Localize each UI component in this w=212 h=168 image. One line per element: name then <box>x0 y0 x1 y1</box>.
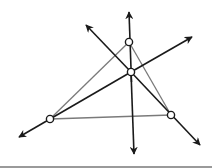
vertical-line-lower <box>131 72 134 154</box>
ascending-line-upper <box>131 37 192 72</box>
descending-line-upper <box>86 25 131 72</box>
point-c <box>167 111 174 118</box>
point-a <box>125 38 132 45</box>
bottom-divider <box>0 166 212 168</box>
point-o <box>127 68 134 75</box>
concurrent-lines-diagram <box>0 0 212 168</box>
edge-bc <box>50 115 171 119</box>
concurrent-lines <box>19 12 200 154</box>
triangle <box>50 42 171 119</box>
ascending-line-lower <box>19 72 131 137</box>
point-b <box>46 115 53 122</box>
descending-line-lower <box>131 72 200 145</box>
